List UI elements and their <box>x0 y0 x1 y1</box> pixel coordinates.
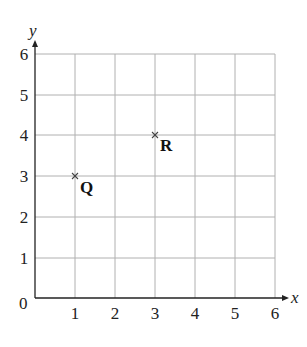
svg-text:4: 4 <box>20 126 29 145</box>
y-axis-label: y <box>27 21 37 40</box>
x-axis-label: x <box>290 288 299 307</box>
svg-text:1: 1 <box>71 304 80 323</box>
y-tick-labels: 1 2 3 4 5 6 <box>20 45 29 268</box>
point-label-q: Q <box>80 178 93 197</box>
grid-lines <box>35 54 275 298</box>
origin-label: 0 <box>19 294 28 313</box>
x-tick-labels: 1 2 3 4 5 6 <box>71 304 280 323</box>
svg-text:2: 2 <box>20 208 29 227</box>
svg-text:2: 2 <box>111 304 120 323</box>
axes <box>32 40 289 301</box>
svg-text:6: 6 <box>20 45 29 64</box>
y-axis-arrow-icon <box>32 40 38 47</box>
svg-text:5: 5 <box>231 304 240 323</box>
svg-text:3: 3 <box>151 304 160 323</box>
svg-text:3: 3 <box>20 167 29 186</box>
svg-text:4: 4 <box>191 304 200 323</box>
svg-text:1: 1 <box>20 249 29 268</box>
coordinate-grid-chart: x y 0 1 2 3 4 5 6 1 2 3 4 5 6 Q R <box>0 0 307 347</box>
x-axis-arrow-icon <box>282 295 289 301</box>
point-label-r: R <box>160 136 173 155</box>
svg-text:5: 5 <box>20 86 29 105</box>
svg-text:6: 6 <box>271 304 280 323</box>
